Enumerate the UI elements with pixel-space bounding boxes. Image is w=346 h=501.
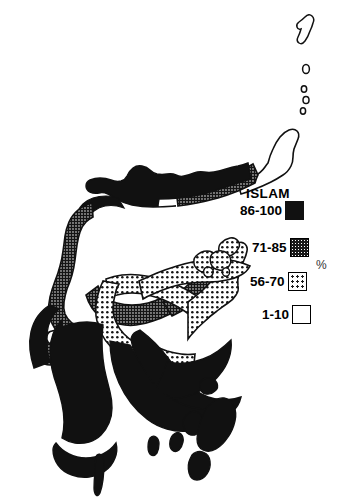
legend-label-56-70: 56-70 bbox=[250, 275, 285, 289]
legend-label-86-100: 86-100 bbox=[240, 204, 282, 218]
legend-swatch-71-85 bbox=[290, 238, 309, 257]
legend-label-1-10: 1-10 bbox=[262, 308, 289, 322]
legend-unit-symbol: % bbox=[316, 258, 327, 272]
legend-title: ISLAM bbox=[246, 186, 290, 201]
legend-swatch-1-10 bbox=[292, 305, 311, 324]
legend-entry-1-10: 1-10 bbox=[262, 305, 311, 324]
legend-entry-56-70: 56-70 bbox=[250, 272, 307, 291]
legend-label-71-85: 71-85 bbox=[252, 241, 287, 255]
legend-entry-86-100: 86-100 bbox=[240, 201, 304, 220]
legend-swatch-56-70 bbox=[288, 272, 307, 291]
map-figure: ISLAM 86-100 71-85 56-70 1-10 % bbox=[0, 0, 346, 501]
map-legend: ISLAM 86-100 71-85 56-70 1-10 % bbox=[238, 186, 346, 318]
legend-entry-71-85: 71-85 bbox=[252, 238, 309, 257]
legend-swatch-86-100 bbox=[285, 201, 304, 220]
